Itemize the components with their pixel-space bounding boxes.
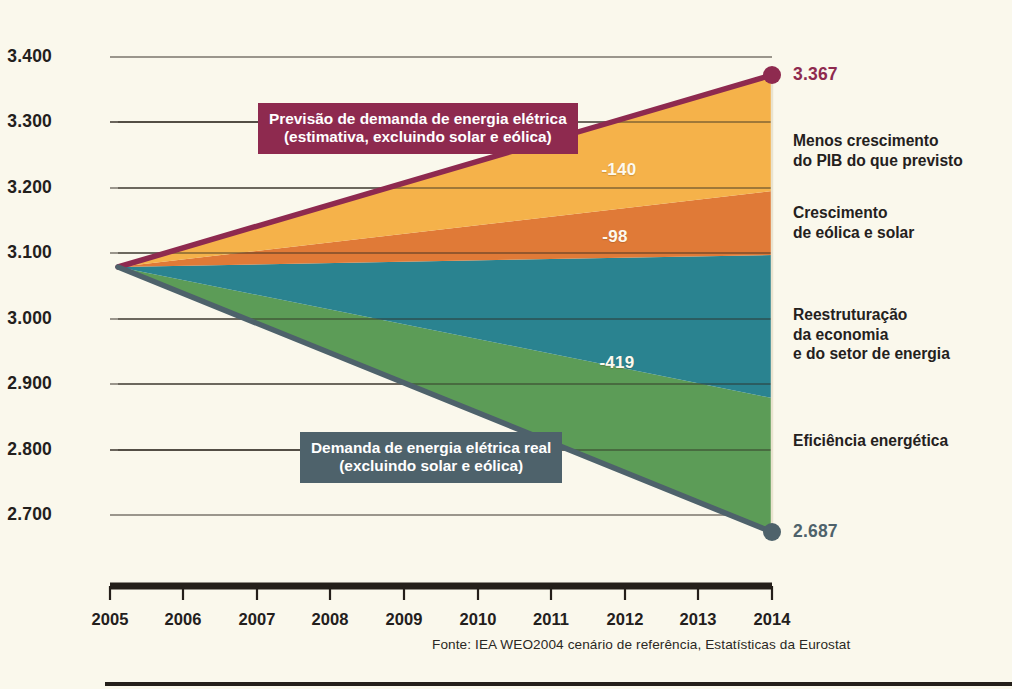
forecast-callout-line1: Previsão de demanda de energia elétrica bbox=[269, 110, 567, 127]
actual-callout-line2: (excluindo solar e eólica) bbox=[311, 457, 551, 475]
delta-label-gdp: -140 bbox=[601, 160, 636, 180]
y-tick-2900: 2.900 bbox=[0, 375, 52, 393]
delta-label-renewables: -98 bbox=[602, 227, 627, 247]
y-tick-3100: 3.100 bbox=[0, 244, 52, 262]
x-tick-2010: 2010 bbox=[459, 610, 496, 629]
x-tick-2006: 2006 bbox=[164, 610, 201, 629]
forecast-callout-line2: (estimativa, excluindo solar e eólica) bbox=[269, 128, 567, 146]
x-tick-2011: 2011 bbox=[533, 610, 569, 629]
forecast-endpoint-value: 3.367 bbox=[793, 64, 838, 85]
y-tick-3300: 3.300 bbox=[0, 113, 52, 131]
x-axis bbox=[110, 586, 772, 600]
y-tick-3000: 3.000 bbox=[0, 310, 52, 328]
legend-item-renewables: Crescimento de eólica e solar bbox=[793, 203, 914, 242]
forecast-endpoint-dot bbox=[763, 66, 781, 84]
legend-renewables-line1: Crescimento bbox=[793, 203, 914, 223]
x-tick-2005: 2005 bbox=[91, 610, 128, 629]
x-tick-2008: 2008 bbox=[311, 610, 348, 629]
legend-efficiency-line1: Eficiência energética bbox=[793, 431, 948, 451]
legend-item-gdp: Menos crescimento do PIB do que previsto bbox=[793, 131, 963, 170]
x-tick-2013: 2013 bbox=[679, 610, 716, 629]
x-tick-2014: 2014 bbox=[753, 610, 790, 629]
y-tick-2800: 2.800 bbox=[0, 441, 52, 459]
delta-label-restructuring: -419 bbox=[599, 353, 634, 373]
legend-gdp-line1: Menos crescimento bbox=[793, 131, 963, 151]
actual-endpoint-value: 2.687 bbox=[793, 521, 838, 542]
source-note: Fonte: IEA WEO2004 cenário de referência… bbox=[432, 637, 850, 652]
actual-callout-line1: Demanda de energia elétrica real bbox=[311, 439, 551, 456]
legend-restructuring-line1: Reestruturação bbox=[793, 305, 950, 325]
y-tick-3200: 3.200 bbox=[0, 179, 52, 197]
legend-restructuring-line3: e do setor de energia bbox=[793, 344, 950, 364]
legend-item-restructuring: Reestruturação da economia e do setor de… bbox=[793, 305, 950, 364]
legend-item-efficiency: Eficiência energética bbox=[793, 431, 948, 451]
y-tick-2700: 2.700 bbox=[0, 506, 52, 524]
actual-callout: Demanda de energia elétrica real (exclui… bbox=[300, 432, 562, 483]
x-tick-2007: 2007 bbox=[238, 610, 275, 629]
x-tick-2012: 2012 bbox=[606, 610, 643, 629]
legend-gdp-line2: do PIB do que previsto bbox=[793, 151, 963, 171]
forecast-callout: Previsão de demanda de energia elétrica … bbox=[258, 103, 578, 154]
infographic-chart: 3.400 3.300 3.200 3.100 3.000 2.900 2.80… bbox=[0, 0, 1012, 689]
y-tick-3400: 3.400 bbox=[0, 48, 52, 66]
legend-restructuring-line2: da economia bbox=[793, 325, 950, 345]
legend-renewables-line2: de eólica e solar bbox=[793, 223, 914, 243]
actual-endpoint-dot bbox=[763, 523, 781, 541]
x-tick-2009: 2009 bbox=[385, 610, 422, 629]
bottom-rule bbox=[105, 682, 1012, 686]
